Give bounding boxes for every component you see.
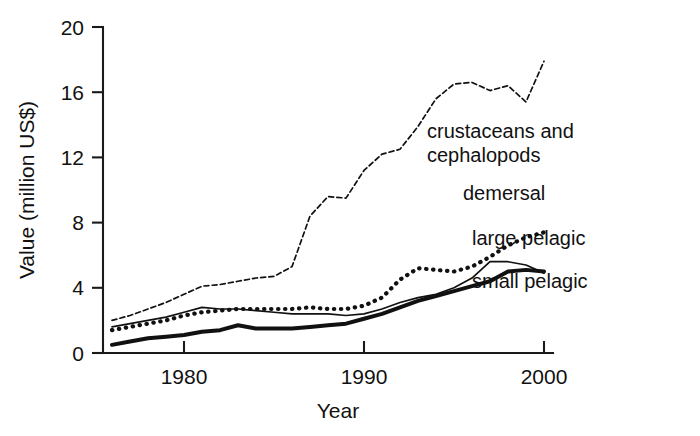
x-tick-label: 2000	[521, 365, 568, 388]
y-tick-label: 4	[72, 276, 84, 299]
series-annotations-group: crustaceans andcephalopodsdemersallarge …	[427, 120, 588, 292]
y-tick-label: 16	[61, 81, 84, 104]
y-tick-label: 12	[61, 146, 84, 169]
crustaceans-label: crustaceans andcephalopods	[427, 120, 574, 166]
x-axis-title: Year	[317, 399, 359, 422]
y-axis-ticks	[92, 27, 103, 353]
chart-figure: 048121620 198019902000 Value (million US…	[0, 0, 700, 436]
y-axis-tick-labels: 048121620	[61, 16, 85, 365]
y-tick-label: 20	[61, 16, 84, 39]
x-tick-label: 1980	[161, 365, 208, 388]
x-axis-ticks	[184, 341, 544, 353]
line-chart-svg: 048121620 198019902000 Value (million US…	[0, 0, 700, 436]
x-axis-tick-labels: 198019902000	[161, 365, 568, 388]
x-tick-label: 1990	[341, 365, 388, 388]
y-tick-label: 8	[72, 211, 84, 234]
y-axis-title: Value (million US$)	[15, 101, 38, 279]
large-pelagic-label: large pelagic	[472, 227, 585, 249]
small-pelagic-label: small pelagic	[472, 270, 588, 292]
demersal-label: demersal	[463, 182, 545, 204]
y-tick-label: 0	[72, 342, 84, 365]
